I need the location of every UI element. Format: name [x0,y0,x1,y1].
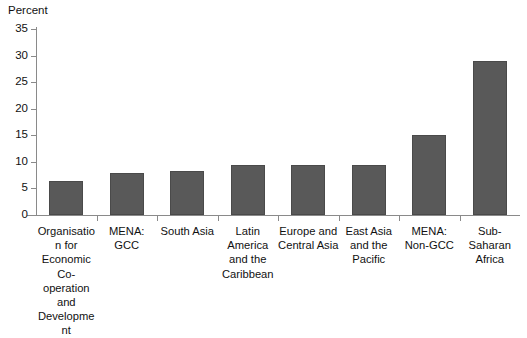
x-axis-category-label: Latin America and the Caribbean [218,224,279,281]
x-axis-category-label: East Asia and the Pacific [339,224,400,267]
bar [473,61,507,215]
bar [352,165,386,215]
bar [49,181,83,215]
bar [412,135,446,215]
y-axis-tick-label: 25 [2,76,28,88]
y-axis-tick-label: 30 [2,50,28,62]
x-axis-line [27,215,520,216]
plot-area [36,29,520,215]
x-axis-category-label: MENA: Non-GCC [399,224,460,252]
y-axis-tick-label: 0 [2,209,28,221]
y-axis-tick-label: 5 [2,182,28,194]
y-axis-tick-label: 15 [2,129,28,141]
bar [291,165,325,215]
x-axis-tick-mark [157,216,158,221]
x-axis-tick-mark [278,216,279,221]
bar [170,171,204,215]
x-axis-category-label: Sub-Saharan Africa [460,224,521,267]
x-axis-tick-mark [399,216,400,221]
x-axis-category-label: Europe and Central Asia [278,224,339,252]
x-axis-category-labels: Organisation for Economic Co-operation a… [36,224,520,310]
x-axis-category-label: Organisation for Economic Co-operation a… [36,224,97,338]
y-axis-tick-label: 20 [2,103,28,115]
x-axis-tick-mark [218,216,219,221]
bar [110,173,144,216]
y-axis-tick-label: 35 [2,23,28,35]
x-axis-category-label: South Asia [157,224,218,238]
bar [231,165,265,215]
y-axis-caption: Percent [8,3,48,17]
x-axis-tick-mark [339,216,340,221]
x-axis-tick-mark [97,216,98,221]
y-axis-tick-mark [31,215,36,216]
x-axis-category-label: MENA: GCC [97,224,158,252]
x-axis-tick-mark [460,216,461,221]
y-axis-tick-label: 10 [2,156,28,168]
